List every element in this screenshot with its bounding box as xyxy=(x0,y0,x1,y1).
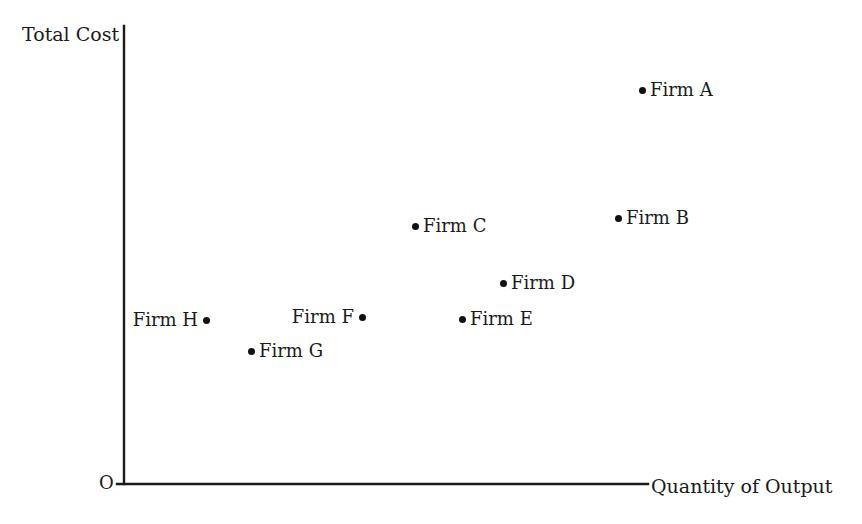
data-point-marker xyxy=(203,317,210,324)
data-point-marker xyxy=(412,223,419,230)
data-point-label: Firm A xyxy=(650,81,713,99)
data-point-marker xyxy=(248,348,255,355)
x-axis-title: Quantity of Output xyxy=(651,477,833,496)
data-point-label: Firm E xyxy=(470,310,533,328)
data-point-marker xyxy=(459,316,466,323)
data-point-marker xyxy=(615,215,622,222)
data-point-label: Firm F xyxy=(292,308,354,326)
data-point-label: Firm D xyxy=(511,274,575,292)
data-point-label: Firm C xyxy=(423,217,486,235)
y-axis-title: Total Cost xyxy=(22,25,119,44)
data-point-label: Firm B xyxy=(626,209,689,227)
data-point-label: Firm H xyxy=(133,311,198,329)
data-point-marker xyxy=(359,314,366,321)
data-point-marker xyxy=(639,87,646,94)
data-point-label: Firm G xyxy=(259,342,323,360)
scatter-chart: Total Cost Quantity of Output O Firm A F… xyxy=(0,0,862,524)
origin-label: O xyxy=(99,474,114,492)
data-point-marker xyxy=(500,280,507,287)
axes-lines xyxy=(0,0,862,524)
